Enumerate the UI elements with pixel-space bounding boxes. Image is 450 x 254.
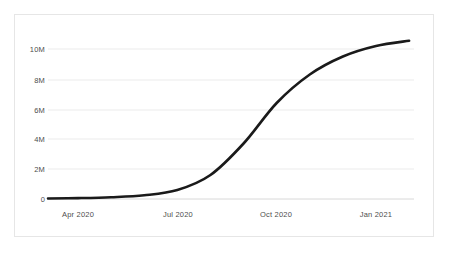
plot-area: 10M 8M 6M 4M 2M 0 bbox=[15, 15, 435, 238]
data-line-cumulative-total bbox=[48, 41, 409, 199]
y-tick-label: 2M bbox=[34, 165, 45, 174]
y-tick-label: 4M bbox=[34, 135, 45, 144]
chart-svg bbox=[15, 15, 435, 238]
chart-card: 10M 8M 6M 4M 2M 0 bbox=[14, 14, 434, 237]
y-tick-label: 8M bbox=[34, 76, 45, 85]
x-tick-label-jul-2020: Jul 2020 bbox=[163, 210, 193, 219]
y-tick-label: 10M bbox=[30, 45, 45, 54]
x-tick-label-jan-2021: Jan 2021 bbox=[360, 210, 392, 219]
x-tick-label-apr-2020: Apr 2020 bbox=[62, 210, 94, 219]
y-tick-label: 6M bbox=[34, 106, 45, 115]
x-tick-label-oct-2020: Oct 2020 bbox=[260, 210, 292, 219]
gridlines bbox=[48, 49, 414, 169]
y-tick-label: 0 bbox=[41, 195, 45, 204]
